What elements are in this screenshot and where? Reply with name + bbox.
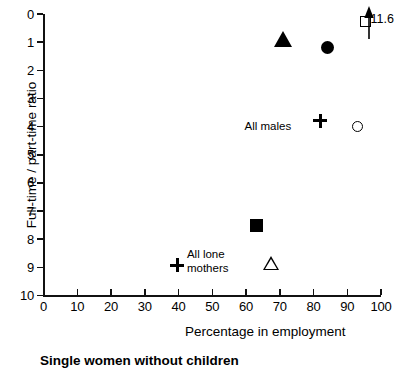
x-tick-10: [77, 289, 79, 295]
annotation-all-lone-mothers-line1: All lone: [187, 249, 225, 261]
x-tick-40: [178, 289, 180, 295]
data-point-filled-circle: [321, 41, 334, 54]
x-tick-80: [313, 289, 315, 295]
x-tick-60: [245, 289, 247, 295]
x-tick-0: [43, 289, 45, 295]
data-markers-layer: [0, 0, 397, 14]
up-arrow-icon: [363, 6, 375, 40]
chart-caption: Single women without children: [40, 353, 239, 368]
data-point-open-circle: [352, 121, 363, 132]
x-axis-line: [43, 295, 381, 297]
y-axis-title: Full-time / part-time ratio: [25, 40, 39, 270]
y-tick-label-10: 0: [8, 8, 34, 21]
data-point-all-males-plus: [313, 114, 327, 128]
y-axis-line: [43, 14, 45, 296]
x-axis-title: Percentage in employment: [185, 325, 346, 339]
x-tick-30: [144, 289, 146, 295]
x-tick-100: [380, 289, 382, 295]
x-tick-50: [212, 289, 214, 295]
x-tick-90: [347, 289, 349, 295]
x-tick-label-100: 100: [361, 300, 397, 313]
scatter-chart: 109876543210 0102030405060708090100 Full…: [0, 0, 397, 378]
data-point-open-triangle: [263, 256, 279, 270]
x-tick-70: [279, 289, 281, 295]
data-point-filled-triangle: [274, 31, 292, 47]
y-tick-10: [37, 13, 43, 15]
data-point-filled-square: [250, 219, 263, 232]
x-tick-20: [110, 289, 112, 295]
data-point-all-lone-mothers-plus: [170, 258, 184, 272]
annotation-all-males: All males: [245, 121, 292, 133]
annotation-all-lone-mothers-line2: mothers: [187, 263, 229, 275]
